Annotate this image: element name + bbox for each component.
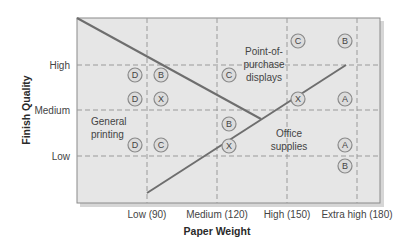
region-pop-line2: purchase bbox=[243, 59, 285, 70]
svg-text:A: A bbox=[342, 140, 348, 150]
point-marker: C bbox=[291, 34, 305, 48]
point-marker: A bbox=[338, 138, 352, 152]
positioning-chart: General printing Point-of- purchase disp… bbox=[0, 0, 405, 250]
svg-text:B: B bbox=[226, 119, 232, 129]
svg-text:D: D bbox=[132, 94, 139, 104]
point-marker: B bbox=[222, 117, 236, 131]
region-general-line1: General bbox=[91, 116, 127, 127]
region-pop-line1: Point-of- bbox=[245, 46, 283, 57]
point-marker: D bbox=[128, 138, 142, 152]
point-marker: D bbox=[128, 92, 142, 106]
y-tick-low: Low bbox=[52, 151, 71, 162]
point-marker: X bbox=[222, 139, 236, 153]
point-marker: B bbox=[154, 68, 168, 82]
svg-text:B: B bbox=[342, 36, 348, 46]
point-marker: C bbox=[154, 138, 168, 152]
region-office-line2: supplies bbox=[271, 141, 308, 152]
y-tick-high: High bbox=[49, 60, 70, 71]
svg-text:C: C bbox=[158, 140, 165, 150]
x-tick-low: Low (90) bbox=[128, 209, 167, 220]
point-marker: X bbox=[154, 92, 168, 106]
svg-text:D: D bbox=[132, 140, 139, 150]
point-marker: B bbox=[338, 34, 352, 48]
x-tick-extra-high: Extra high (180) bbox=[321, 209, 392, 220]
x-axis-title: Paper Weight bbox=[184, 225, 251, 237]
svg-text:X: X bbox=[158, 94, 164, 104]
point-marker: A bbox=[338, 92, 352, 106]
point-marker: D bbox=[128, 68, 142, 82]
point-marker: C bbox=[222, 68, 236, 82]
y-tick-medium: Medium bbox=[34, 105, 70, 116]
svg-text:B: B bbox=[342, 161, 348, 171]
region-pop-line3: displays bbox=[246, 72, 282, 83]
x-tick-medium: Medium (120) bbox=[186, 209, 248, 220]
svg-text:X: X bbox=[226, 141, 232, 151]
region-general-line2: printing bbox=[91, 129, 124, 140]
svg-text:D: D bbox=[132, 70, 139, 80]
svg-text:C: C bbox=[295, 36, 302, 46]
point-marker: X bbox=[291, 92, 305, 106]
region-office-line1: Office bbox=[276, 128, 302, 139]
x-tick-high: High (150) bbox=[264, 209, 311, 220]
y-axis-title: Finish Quality bbox=[20, 75, 32, 145]
svg-text:B: B bbox=[158, 70, 164, 80]
svg-text:X: X bbox=[295, 94, 301, 104]
svg-text:C: C bbox=[226, 70, 233, 80]
svg-text:A: A bbox=[342, 94, 348, 104]
point-marker: B bbox=[338, 159, 352, 173]
